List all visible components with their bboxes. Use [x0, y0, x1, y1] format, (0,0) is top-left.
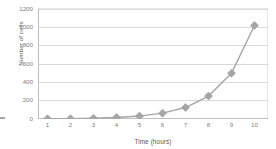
y-tick-label: 200	[0, 96, 33, 103]
data-point-marker	[159, 109, 167, 117]
data-point-marker	[44, 115, 52, 119]
x-axis-title: Time (hours)	[38, 138, 268, 145]
plot-svg	[38, 9, 268, 119]
y-tick-label: 0	[0, 115, 33, 122]
x-tick-label: 4	[107, 121, 127, 128]
x-tick-label: 8	[199, 121, 219, 128]
x-tick-label: 3	[84, 121, 104, 128]
y-tick-label: 400	[0, 78, 33, 85]
x-tick-label: 6	[153, 121, 173, 128]
cell-growth-line-chart: Number of cells 1200 1000 800 600 400 20…	[0, 0, 276, 149]
data-point-marker	[67, 115, 75, 119]
data-point-marker	[182, 104, 190, 112]
y-tick-label: 800	[0, 41, 33, 48]
data-point-marker	[136, 112, 144, 119]
x-tick-label: 5	[130, 121, 150, 128]
plot-area	[38, 8, 268, 118]
data-markers	[44, 22, 259, 120]
data-line	[48, 26, 255, 119]
x-tick-label: 1	[38, 121, 58, 128]
x-tick-label: 7	[176, 121, 196, 128]
data-point-marker	[113, 114, 121, 119]
x-tick-label: 10	[245, 121, 265, 128]
y-tick-label: 600	[0, 60, 33, 67]
gridlines	[38, 10, 268, 101]
x-tick-label: 2	[61, 121, 81, 128]
data-point-marker	[90, 114, 98, 119]
y-tick-label: 1200	[0, 5, 33, 12]
y-tick-label: 1000	[0, 23, 33, 30]
x-tick-label: 9	[222, 121, 242, 128]
